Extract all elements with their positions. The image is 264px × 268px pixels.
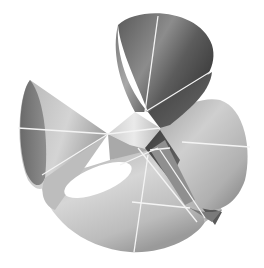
surface-render	[0, 0, 264, 268]
surface-svg	[0, 0, 264, 268]
